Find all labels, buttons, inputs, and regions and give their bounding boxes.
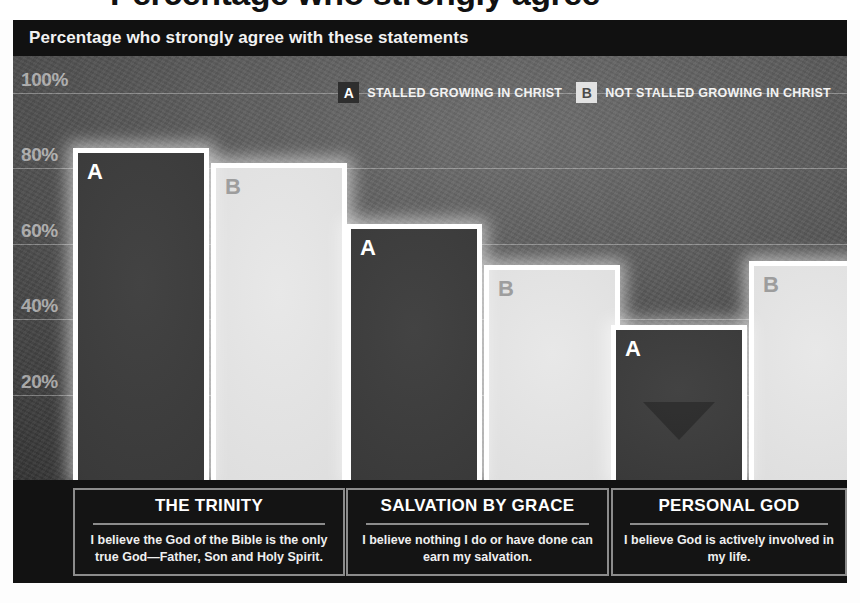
- bar-letter-b: B: [225, 174, 240, 200]
- caption-title-3: PERSONAL GOD: [658, 496, 799, 516]
- cropped-headline: Percentage who strongly agree: [0, 0, 860, 20]
- legend-swatch-a: A: [338, 82, 359, 103]
- caption-body-1: I believe the God of the Bible is the on…: [83, 532, 335, 567]
- bar-a-group-1[interactable]: A: [73, 148, 209, 480]
- bars-layer: ABABAB: [13, 56, 847, 480]
- legend-item-a[interactable]: A STALLED GROWING IN CHRIST: [338, 82, 562, 103]
- bar-b-group-3[interactable]: B: [749, 261, 847, 480]
- bar-b-group-1[interactable]: B: [211, 163, 347, 480]
- legend-swatch-b: B: [576, 82, 597, 103]
- bar-a-group-3[interactable]: A: [611, 325, 747, 480]
- subtitle-bar: Percentage who strongly agree with these…: [13, 20, 847, 56]
- plot-area: 20%40%60%80%100% ABABAB: [13, 56, 847, 480]
- chart-legend: A STALLED GROWING IN CHRIST B NOT STALLE…: [338, 82, 831, 103]
- caption-body-3: I believe God is actively involved in my…: [621, 532, 837, 567]
- caption-divider: [366, 523, 590, 525]
- legend-label-a: STALLED GROWING IN CHRIST: [367, 86, 562, 100]
- bar-letter-a: A: [625, 336, 640, 362]
- caption-card-1: THE TRINITYI believe the God of the Bibl…: [73, 488, 345, 576]
- chevron-down-icon: [643, 402, 715, 440]
- caption-card-3: PERSONAL GODI believe God is actively in…: [611, 488, 847, 576]
- caption-strip: THE TRINITYI believe the God of the Bibl…: [13, 480, 847, 583]
- caption-divider: [93, 523, 325, 525]
- bar-letter-b: B: [763, 272, 778, 298]
- bar-letter-a: A: [360, 235, 375, 261]
- caption-divider: [630, 523, 829, 525]
- caption-body-2: I believe nothing I do or have done can …: [356, 532, 599, 567]
- bar-a-group-2[interactable]: A: [346, 224, 482, 480]
- chart-panel: Percentage who strongly agree with these…: [13, 20, 847, 583]
- caption-title-1: THE TRINITY: [155, 496, 263, 516]
- bar-letter-b: B: [498, 276, 513, 302]
- chart-subtitle: Percentage who strongly agree with these…: [13, 28, 469, 48]
- legend-item-b[interactable]: B NOT STALLED GROWING IN CHRIST: [576, 82, 831, 103]
- legend-label-b: NOT STALLED GROWING IN CHRIST: [605, 86, 831, 100]
- bar-letter-a: A: [87, 159, 102, 185]
- bar-b-group-2[interactable]: B: [484, 265, 620, 480]
- cropped-headline-text: Percentage who strongly agree: [110, 0, 600, 13]
- caption-title-2: SALVATION BY GRACE: [381, 496, 575, 516]
- caption-card-2: SALVATION BY GRACEI believe nothing I do…: [346, 488, 609, 576]
